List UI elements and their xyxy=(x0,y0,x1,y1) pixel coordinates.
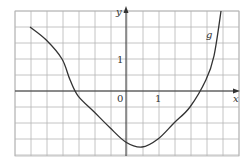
y-axis-label: y xyxy=(115,6,122,17)
x-axis-label: x xyxy=(233,93,239,104)
x-tick-label-1: 1 xyxy=(155,93,161,104)
origin-label: 0 xyxy=(117,93,123,104)
graph-of-g: y x 0 1 1 g xyxy=(0,0,250,164)
function-label-g: g xyxy=(206,29,212,40)
y-tick-label-1: 1 xyxy=(117,54,123,65)
y-axis-arrow-icon xyxy=(124,6,129,13)
